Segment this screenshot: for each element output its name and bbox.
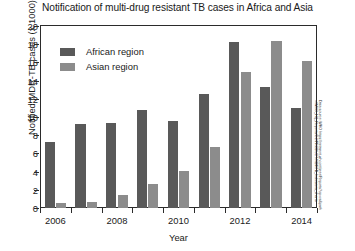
x-tick-mark [132, 208, 133, 213]
bar [106, 123, 116, 208]
x-tick-mark [40, 208, 41, 213]
y-tick-label: 18 [0, 39, 38, 50]
x-tick-label: 2008 [107, 215, 128, 226]
y-tick-mark [34, 208, 39, 209]
y-tick-mark [34, 44, 39, 45]
bar [199, 94, 209, 208]
x-tick-mark [71, 208, 72, 213]
chart-title: Notification of multi-drug resistant TB … [0, 2, 355, 14]
x-tick-label: 2006 [45, 215, 66, 226]
bar [271, 41, 281, 208]
bar [229, 42, 239, 208]
y-tick-mark [34, 172, 39, 173]
y-tick-label: 4 [0, 166, 38, 177]
x-tick-label: 2012 [230, 215, 251, 226]
y-tick-mark [34, 135, 39, 136]
chart-legend: African regionAsian region [60, 44, 144, 74]
bar [302, 61, 312, 208]
y-tick-mark [34, 99, 39, 100]
y-tick-label: 6 [0, 148, 38, 159]
y-tick-label: 0 [0, 203, 38, 214]
bar [75, 124, 85, 208]
bar [260, 87, 270, 208]
x-tick-mark [102, 208, 103, 213]
y-tick-mark [34, 153, 39, 154]
y-tick-label: 20 [0, 21, 38, 32]
legend-swatch [60, 63, 75, 71]
bar [87, 202, 97, 208]
bar [291, 108, 301, 208]
x-tick-mark [194, 208, 195, 213]
y-tick-mark [34, 81, 39, 82]
y-tick-mark [34, 26, 39, 27]
y-tick-mark [34, 117, 39, 118]
bar [45, 142, 55, 208]
x-tick-mark [286, 208, 287, 213]
legend-label: Asian region [86, 61, 138, 72]
y-tick-label: 8 [0, 130, 38, 141]
bar [241, 72, 251, 209]
bar [118, 195, 128, 208]
x-tick-mark [255, 208, 256, 213]
bar [179, 171, 189, 208]
bar [56, 203, 66, 208]
legend-swatch [60, 48, 75, 56]
y-tick-label: 10 [0, 112, 38, 123]
y-tick-mark [34, 190, 39, 191]
bar [148, 184, 158, 208]
x-axis-label: Year [40, 232, 317, 243]
y-tick-label: 16 [0, 57, 38, 68]
legend-item: Asian region [60, 59, 144, 74]
bar [168, 121, 178, 208]
legend-label: African region [86, 46, 144, 57]
y-tick-label: 12 [0, 93, 38, 104]
bar [210, 147, 220, 208]
chart-container: Notification of multi-drug resistant TB … [0, 0, 355, 251]
source-note: Data source: WHO https://extranet.who.in… [313, 100, 322, 212]
y-tick-mark [34, 62, 39, 63]
x-tick-label: 2014 [291, 215, 312, 226]
legend-item: African region [60, 44, 144, 59]
y-tick-label: 14 [0, 75, 38, 86]
y-tick-label: 2 [0, 184, 38, 195]
bar [137, 110, 147, 208]
x-tick-mark [163, 208, 164, 213]
x-tick-mark [225, 208, 226, 213]
x-tick-label: 2010 [168, 215, 189, 226]
